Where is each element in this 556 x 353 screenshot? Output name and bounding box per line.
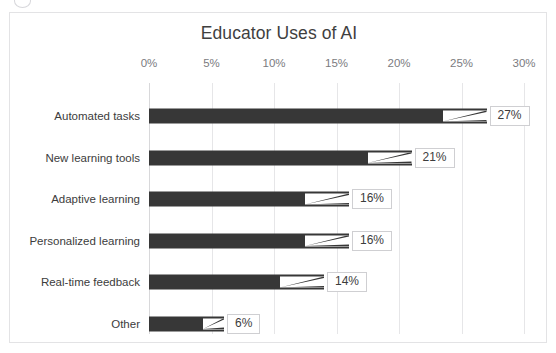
category-label: Personalized learning <box>29 235 140 247</box>
category-label: Automated tasks <box>54 110 140 122</box>
x-tick-label: 30% <box>512 57 535 69</box>
category-label: Real-time feedback <box>41 276 140 288</box>
bar[interactable] <box>149 109 487 124</box>
bar[interactable] <box>149 316 224 331</box>
data-label: 27% <box>490 106 530 126</box>
x-tick-label: 0% <box>141 57 158 69</box>
category-label: Adaptive learning <box>51 193 140 205</box>
plot-area: Automated tasks27%New learning tools21%A… <box>149 83 524 334</box>
x-tick-label: 5% <box>203 57 220 69</box>
bar[interactable] <box>149 275 324 290</box>
bar[interactable] <box>149 150 412 165</box>
category-label: Other <box>111 318 140 330</box>
x-tick-label: 10% <box>262 57 285 69</box>
data-label: 14% <box>327 272 367 292</box>
data-label: 16% <box>352 189 392 209</box>
data-label: 16% <box>352 231 392 251</box>
x-axis-tick-labels: 0%5%10%15%20%25%30% <box>149 57 524 77</box>
scan-artifact <box>14 0 31 8</box>
bar[interactable] <box>149 233 349 248</box>
x-tick-label: 20% <box>387 57 410 69</box>
data-label: 6% <box>227 314 260 334</box>
x-tick-label: 15% <box>325 57 348 69</box>
data-label: 21% <box>415 148 455 168</box>
chart-title: Educator Uses of AI <box>10 23 548 44</box>
chart-container: Educator Uses of AI 0%5%10%15%20%25%30% … <box>9 12 547 343</box>
x-tick-label: 25% <box>450 57 473 69</box>
bar[interactable] <box>149 192 349 207</box>
category-label: New learning tools <box>45 152 140 164</box>
